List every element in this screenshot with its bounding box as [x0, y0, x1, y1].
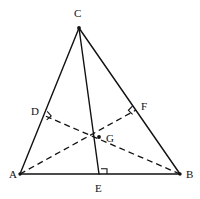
geometry-diagram: A B C D E F G: [0, 0, 200, 199]
label-E: E: [95, 182, 102, 194]
label-A: A: [9, 168, 17, 180]
label-C: C: [74, 7, 81, 19]
label-D: D: [31, 105, 39, 117]
label-G: G: [106, 132, 114, 144]
point-B: [178, 172, 181, 175]
segment-CE-altitude: [79, 28, 99, 174]
label-F: F: [141, 100, 147, 112]
right-angle-marker-F: [128, 106, 132, 114]
segment-AF-altitude: [20, 110, 136, 174]
point-C: [77, 26, 81, 30]
point-G: [97, 135, 101, 139]
point-A: [18, 172, 21, 175]
geometry-canvas: A B C D E F G: [0, 0, 200, 199]
right-angle-marker-E: [101, 169, 107, 174]
label-B: B: [186, 168, 193, 180]
segment-AC: [20, 28, 79, 174]
